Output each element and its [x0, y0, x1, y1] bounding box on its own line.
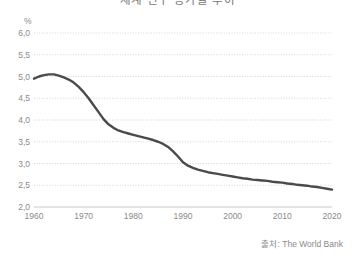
y-axis-unit-label: %: [24, 16, 32, 26]
x-axis-tick-label: 2020: [312, 212, 352, 221]
y-axis-tick-label: 3,5: [4, 138, 30, 147]
page-title: 세계 인구 증가율 추이: [0, 0, 355, 5]
y-axis-tick-label: 2,5: [4, 181, 30, 190]
x-axis-tick-label: 1990: [163, 212, 203, 221]
x-axis-tick-label: 1980: [113, 212, 153, 221]
y-axis-tick-label: 5,5: [4, 51, 30, 60]
x-axis-tick-label: 1970: [64, 212, 104, 221]
y-axis-tick-labels: 2,02,53,03,54,04,55,05,56,0: [0, 33, 30, 207]
y-axis-tick-label: 3,0: [4, 160, 30, 169]
source-attribution: 출처: The World Bank: [261, 237, 343, 249]
y-axis-tick-label: 6,0: [4, 29, 30, 38]
y-axis-tick-label: 4,5: [4, 94, 30, 103]
y-axis-tick-label: 4,0: [4, 116, 30, 125]
x-axis-tick-label: 2000: [213, 212, 253, 221]
x-axis-tick-labels: 1960197019801990200020102020: [34, 212, 332, 224]
x-axis-tick-label: 2010: [262, 212, 302, 221]
line-chart-svg: [34, 33, 332, 207]
plot-area: [34, 33, 332, 207]
y-axis-tick-label: 5,0: [4, 73, 30, 82]
x-axis-tick-label: 1960: [14, 212, 54, 221]
data-line-population-growth: [34, 74, 332, 189]
